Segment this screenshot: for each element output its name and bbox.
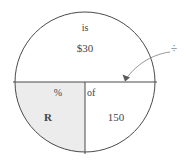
- rate-variable: R: [36, 112, 60, 123]
- base-value: 150: [101, 112, 131, 123]
- division-sign-icon: ÷: [166, 42, 182, 54]
- is-label: is: [55, 23, 115, 33]
- percent-circle-diagram: is $30 % R of 150 ÷: [0, 0, 186, 165]
- annotation-arrow-curve: [126, 52, 170, 79]
- percent-symbol: %: [46, 88, 70, 98]
- amount-value: $30: [55, 43, 115, 54]
- of-label: of: [87, 88, 107, 98]
